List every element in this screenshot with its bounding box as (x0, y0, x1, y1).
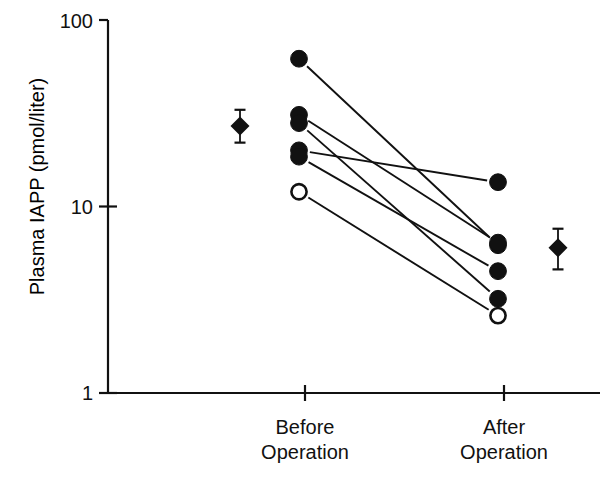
mean-group-1 (549, 229, 568, 270)
x-label-before-line1: Before (276, 416, 335, 438)
marker-before-s6 (291, 184, 306, 199)
subject-markers (291, 50, 507, 323)
axis-lines (108, 20, 600, 393)
x-label-after-line1: After (483, 416, 526, 438)
mean-diamond-1 (549, 238, 568, 257)
x-axis-category-labels: Before Operation After Operation (261, 416, 548, 463)
marker-before-s3 (291, 115, 308, 132)
marker-after-s6 (490, 308, 505, 323)
mean-diamond-0 (231, 117, 250, 136)
mean-group-0 (231, 110, 250, 143)
y-tick-labels: 100 10 1 (60, 10, 93, 404)
chart-figure: Plasma IAPP (pmol/liter) 100 10 1 Before… (0, 0, 616, 479)
y-tick-label-1: 1 (82, 382, 93, 404)
marker-after-s5 (490, 263, 507, 280)
marker-after-s2 (490, 234, 507, 251)
plot-area: 100 10 1 Before Operation After Operatio… (0, 0, 616, 479)
x-label-after-line2: Operation (460, 441, 548, 463)
pair-line-s4 (310, 152, 487, 180)
pair-connector-lines (307, 66, 490, 310)
y-tick-label-100: 100 (60, 10, 93, 32)
marker-after-s3 (490, 290, 507, 307)
marker-before-s5 (291, 148, 308, 165)
y-tick-label-10: 10 (71, 196, 93, 218)
marker-before-s1 (291, 50, 308, 67)
marker-after-s4 (490, 174, 507, 191)
pair-line-s2 (308, 121, 488, 237)
group-mean-markers (231, 110, 568, 270)
x-label-before-line2: Operation (261, 441, 349, 463)
